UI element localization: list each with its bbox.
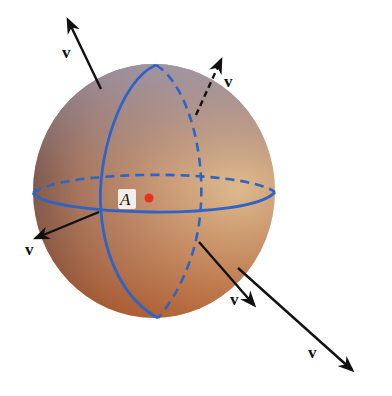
point-a-label: A [119,190,131,209]
point-a-dot [145,194,154,203]
vector-5-label: v [308,343,317,362]
vector-3-label: v [25,240,34,259]
vector-4-label: v [230,290,239,309]
vector-2-label: v [224,72,233,91]
sphere-diagram: A v v v v v [0,0,392,396]
vector-1-label: v [62,43,71,62]
sphere [33,64,275,318]
vector-1 [68,20,101,89]
vector-5 [238,268,352,370]
